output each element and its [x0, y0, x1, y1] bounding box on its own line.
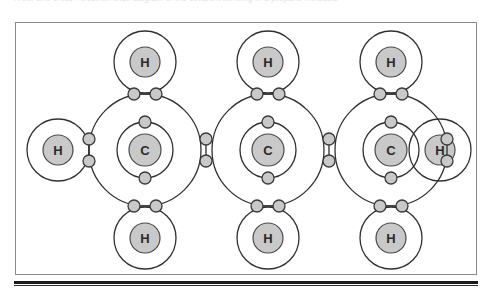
bonding-electron [251, 88, 263, 100]
bonding-electron [128, 200, 140, 212]
carbon-nucleus [375, 134, 407, 166]
bonding-electron [273, 200, 285, 212]
carbon-nucleus [252, 134, 284, 166]
hydrogen-nucleus [43, 135, 73, 165]
hydrogen-nucleus [376, 47, 406, 77]
atom-nuclei-layer [43, 47, 455, 253]
cut-off-caption-text: A dot-and-cross / electron shell diagram… [14, 0, 434, 3]
hydrogen-nucleus [130, 223, 160, 253]
inner-shell-electron [262, 172, 274, 184]
bonding-electron [396, 88, 408, 100]
bonding-electron [273, 88, 285, 100]
bonding-electron [150, 200, 162, 212]
hydrogen-nucleus [253, 47, 283, 77]
bottom-divider-rule [14, 281, 478, 284]
bonding-electron [128, 88, 140, 100]
bonding-electron [441, 133, 453, 145]
inner-shell-electron [139, 172, 151, 184]
inner-shell-electron [385, 172, 397, 184]
bonding-electron [323, 155, 335, 167]
figure-frame: CCCHHHHHHHH [15, 22, 477, 275]
bonding-electron [200, 155, 212, 167]
bonding-electron [83, 133, 95, 145]
propane-electron-shell-diagram: CCCHHHHHHHH [16, 23, 476, 274]
bottom-divider-rule-thin [14, 285, 478, 286]
bonding-electron [374, 200, 386, 212]
bonding-electron [251, 200, 263, 212]
carbon-nucleus [129, 134, 161, 166]
bonding-electron [396, 200, 408, 212]
bonding-electron [323, 133, 335, 145]
inner-shell-electron [385, 116, 397, 128]
bonding-electron [83, 155, 95, 167]
hydrogen-nucleus [253, 223, 283, 253]
inner-shell-electron [262, 116, 274, 128]
bonding-electron [374, 88, 386, 100]
inner-shell-electron [139, 116, 151, 128]
bonding-electron [441, 155, 453, 167]
hydrogen-nucleus [376, 223, 406, 253]
bonding-electron [150, 88, 162, 100]
bonding-electron [200, 133, 212, 145]
hydrogen-nucleus [130, 47, 160, 77]
